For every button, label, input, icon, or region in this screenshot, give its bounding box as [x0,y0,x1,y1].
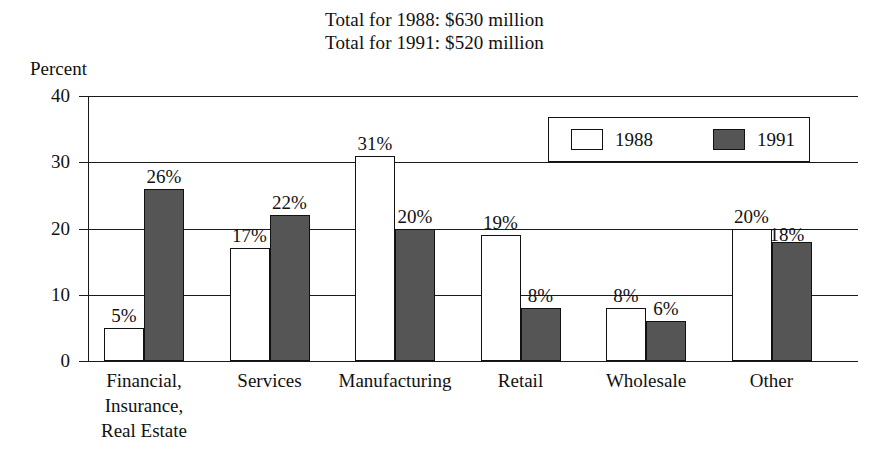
bar-group: 31%20% [355,96,435,361]
bar-value-label: 6% [642,299,690,318]
bar-1988-2[interactable] [355,156,395,361]
bar-value-label: 20% [728,207,776,226]
x-axis-label-line: Real Estate [82,418,206,443]
bar-1991-3[interactable] [521,308,561,361]
y-tick-label-30: 30 [51,152,70,171]
chart-title-block: Total for 1988: $630 million Total for 1… [325,8,544,54]
x-axis-label: Other [710,368,834,393]
bar-value-label: 22% [266,193,314,212]
x-axis-label-line: Financial, [82,368,206,393]
legend-label-1991: 1991 [757,129,795,151]
bar-1991-1[interactable] [270,215,310,361]
bar-value-label: 8% [517,286,565,305]
x-axis-label-line: Services [208,368,332,393]
bar-value-label: 17% [226,226,274,245]
total-1988-line: Total for 1988: $630 million [325,8,544,31]
x-axis-label: Retail [459,368,583,393]
x-axis-label-row: Financial,Insurance,Real EstateServicesM… [88,368,858,453]
y-tick-label-0: 0 [61,351,71,370]
bar-1991-5[interactable] [772,242,812,361]
x-axis-label: Financial,Insurance,Real Estate [82,368,206,443]
chart-legend: 1988 1991 [548,117,810,162]
x-axis-label: Services [208,368,332,393]
total-1991-line: Total for 1991: $520 million [325,31,544,54]
x-axis-label-line: Insurance, [82,393,206,418]
y-tick-label-20: 20 [51,219,70,238]
gridline-0 [88,361,858,362]
bar-value-label: 20% [391,207,439,226]
y-tick-0 [79,361,88,362]
x-axis-label-line: Retail [459,368,583,393]
bar-value-label: 19% [477,213,525,232]
bar-group: 5%26% [104,96,184,361]
legend-item-1988: 1988 [571,129,653,151]
bar-1988-4[interactable] [606,308,646,361]
white-swatch-icon [571,129,603,150]
x-axis-label-line: Manufacturing [333,368,457,393]
chart-figure: Total for 1988: $630 million Total for 1… [0,0,893,453]
bar-group: 17%22% [230,96,310,361]
bar-value-label: 5% [100,306,148,325]
y-tick-30 [79,162,88,163]
legend-label-1988: 1988 [615,129,653,151]
y-tick-10 [79,295,88,296]
y-tick-20 [79,229,88,230]
x-axis-label-line: Wholesale [584,368,708,393]
bar-value-label: 26% [140,167,188,186]
legend-item-1991: 1991 [713,129,795,151]
bar-1988-0[interactable] [104,328,144,361]
bar-1988-5[interactable] [732,229,772,362]
x-axis-label-line: Other [710,368,834,393]
y-tick-40 [79,96,88,97]
y-tick-label-10: 10 [51,285,70,304]
bar-value-label: 31% [351,134,399,153]
bar-value-label: 18% [770,225,805,244]
bar-1991-4[interactable] [646,321,686,361]
x-axis-label: Manufacturing [333,368,457,393]
bar-1991-2[interactable] [395,229,435,362]
bar-1991-0[interactable] [144,189,184,361]
x-axis-label: Wholesale [584,368,708,393]
gray-swatch-icon [713,129,745,150]
y-tick-label-40: 40 [51,86,70,105]
y-axis-caption: Percent [30,58,87,80]
bar-1988-3[interactable] [481,235,521,361]
bar-1988-1[interactable] [230,248,270,361]
